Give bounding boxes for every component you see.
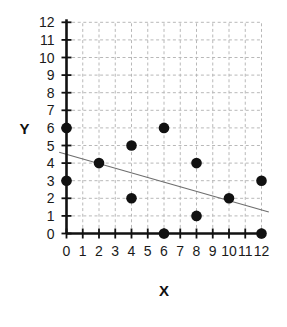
data-point	[256, 175, 267, 186]
x-axis-title: X	[159, 282, 169, 299]
y-axis-tick-label: 11	[40, 32, 55, 48]
x-axis-tick-label: 11	[238, 243, 253, 259]
data-point	[61, 123, 72, 134]
x-axis-tick-label: 4	[128, 243, 136, 259]
y-axis-tick-label: 9	[47, 67, 55, 83]
x-axis-tick-label: 1	[79, 243, 87, 259]
y-axis-tick-label: 1	[47, 208, 55, 224]
x-axis-tick-label: 6	[160, 243, 168, 259]
x-axis-tick-label: 10	[221, 243, 237, 259]
y-axis-tick-label: 12	[39, 14, 55, 30]
y-axis-tick-label: 2	[47, 190, 55, 206]
y-axis-tick-label: 5	[47, 138, 55, 154]
data-point	[126, 193, 137, 204]
chart-canvas: 01234567891011120123456789101112YX	[0, 0, 287, 327]
x-axis-tick-label: 3	[111, 243, 119, 259]
data-point	[159, 123, 170, 134]
y-axis-tick-label: 0	[47, 226, 55, 242]
x-axis-tick-label: 2	[95, 243, 103, 259]
y-axis-tick-label: 6	[47, 120, 55, 136]
y-axis-title: Y	[19, 120, 29, 137]
data-point	[61, 175, 72, 186]
y-axis-tick-label: 7	[47, 102, 55, 118]
x-axis-tick-label: 9	[209, 243, 217, 259]
y-axis-tick-label: 3	[47, 173, 55, 189]
x-axis-tick-label: 0	[63, 243, 71, 259]
x-axis-tick-label: 7	[176, 243, 184, 259]
scatter-plot-figure: 01234567891011120123456789101112YX	[0, 0, 287, 327]
data-point	[126, 140, 137, 151]
data-point	[191, 158, 202, 169]
data-point	[224, 193, 235, 204]
y-axis-tick-label: 4	[47, 155, 55, 171]
y-axis-tick-label: 10	[39, 50, 55, 66]
x-axis-tick-label: 5	[144, 243, 152, 259]
data-point	[256, 228, 267, 239]
x-axis-tick-label: 8	[193, 243, 201, 259]
data-point	[159, 228, 170, 239]
data-point	[191, 211, 202, 222]
y-axis-tick-label: 8	[47, 85, 55, 101]
x-axis-tick-label: 12	[254, 243, 270, 259]
data-point	[94, 158, 105, 169]
